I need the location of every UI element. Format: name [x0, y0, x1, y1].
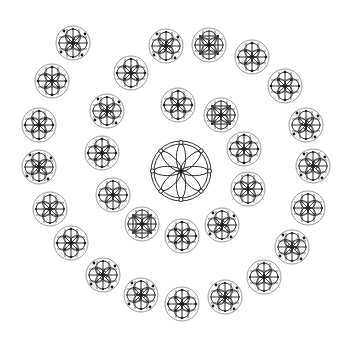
emblem-dotted: [205, 208, 239, 242]
emblem-dotted: [296, 149, 330, 183]
emblem-square: [204, 98, 238, 132]
emblem-quatrefoil: [165, 219, 199, 253]
emblem-quatrefoil: [165, 287, 199, 321]
emblem-dotted: [22, 150, 56, 184]
emblem-quatrefoil: [227, 132, 261, 166]
emblem-dotted: [149, 29, 183, 63]
emblem-plain: [291, 191, 325, 225]
emblem-plain: [247, 260, 281, 294]
emblem-plain: [33, 192, 67, 226]
inner-ring: [161, 88, 238, 132]
emblem-square: [192, 28, 226, 62]
emblem-quatrefoil: [114, 56, 148, 90]
emblem-dotted: [289, 108, 323, 142]
central-rosette: [151, 141, 212, 202]
emblem-quatrefoil: [54, 226, 88, 260]
emblem-dotted: [208, 280, 242, 314]
emblem-dotted: [90, 94, 124, 128]
outer-ring: [22, 26, 330, 321]
emblem-rings: [22, 26, 330, 321]
emblem-dotted: [275, 230, 309, 264]
emblem-quatrefoil: [85, 136, 119, 170]
emblem-quatrefoil: [22, 108, 56, 142]
rosette-diagram: [0, 0, 345, 341]
emblem-square: [125, 207, 159, 241]
emblem-dotted: [124, 278, 158, 312]
emblem-dotted: [86, 258, 120, 292]
emblem-plain: [231, 172, 265, 206]
middle-ring: [85, 56, 265, 253]
emblem-plain: [96, 178, 130, 212]
emblem-quatrefoil: [268, 69, 302, 103]
emblem-quatrefoil: [235, 40, 269, 74]
emblem-quatrefoil: [35, 64, 69, 98]
emblem-quatrefoil: [161, 88, 195, 122]
emblem-dotted: [56, 26, 90, 60]
